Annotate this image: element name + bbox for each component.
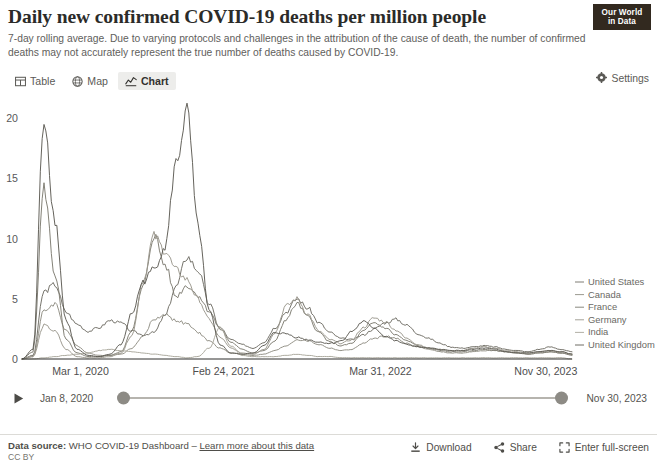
data-source-prefix: Data source: <box>8 440 66 451</box>
timeline-slider[interactable] <box>117 390 568 406</box>
tab-map[interactable]: Map <box>65 72 115 90</box>
chart-tab-bar: Table Map Chart <box>0 70 657 92</box>
chart-header: Daily new confirmed COVID-19 deaths per … <box>0 0 657 60</box>
data-source-block: Data source: WHO COVID-19 Dashboard – Le… <box>8 440 314 463</box>
y-tick-label: 20 <box>6 112 18 124</box>
timeline-handle-end[interactable] <box>555 392 568 405</box>
download-button[interactable]: Download <box>410 442 471 453</box>
settings-label: Settings <box>611 73 649 84</box>
x-tick-label: Mar 31, 2022 <box>349 365 412 377</box>
legend-label[interactable]: France <box>588 301 617 312</box>
x-tick-label: Feb 24, 2021 <box>193 365 256 377</box>
share-icon <box>494 442 505 453</box>
series-line[interactable] <box>22 257 572 359</box>
owid-logo-line2: in Data <box>608 17 636 26</box>
fullscreen-label: Enter full-screen <box>575 442 649 453</box>
timeline-start-date: Jan 8, 2020 <box>40 393 93 404</box>
download-label: Download <box>426 442 471 453</box>
x-tick-label: Mar 1, 2020 <box>52 365 109 377</box>
play-icon <box>12 392 25 405</box>
legend-label[interactable]: United States <box>588 276 645 287</box>
timeline-handle-start[interactable] <box>117 392 130 405</box>
y-axis-tick-labels: 05101520 <box>6 112 18 365</box>
share-label: Share <box>510 442 537 453</box>
table-icon <box>15 76 26 87</box>
tab-table[interactable]: Table <box>8 72 62 90</box>
tab-map-label: Map <box>87 75 108 87</box>
legend-label[interactable]: United Kingdom <box>588 339 655 350</box>
tab-chart-label: Chart <box>141 75 169 87</box>
owid-logo-line1: Our World <box>602 8 643 17</box>
learn-more-link[interactable]: Learn more about this data <box>199 440 314 451</box>
series-line[interactable] <box>22 103 572 359</box>
legend-label[interactable]: Germany <box>588 314 627 325</box>
fullscreen-icon <box>559 442 570 453</box>
y-tick-label: 0 <box>12 353 18 365</box>
owid-chart-embed: Daily new confirmed COVID-19 deaths per … <box>0 0 657 463</box>
gear-icon <box>596 72 607 85</box>
chart-plot-area[interactable]: 05101520 United StatesCanadaFranceGerman… <box>0 96 657 381</box>
chart-footer: Data source: WHO COVID-19 Dashboard – Le… <box>0 434 657 463</box>
timeline-control[interactable]: Jan 8, 2020 Nov 30, 2023 <box>0 383 657 413</box>
globe-icon <box>72 76 83 87</box>
play-button[interactable] <box>10 390 26 406</box>
data-source-name: WHO COVID-19 Dashboard <box>69 440 189 451</box>
series-line[interactable] <box>22 183 572 359</box>
tab-table-label: Table <box>30 75 55 87</box>
x-tick-label: Nov 30, 2023 <box>514 365 577 377</box>
series-lines <box>22 103 572 359</box>
chart-legend: United StatesCanadaFranceGermanyIndiaUni… <box>575 276 655 350</box>
download-icon <box>410 442 421 453</box>
tab-chart[interactable]: Chart <box>118 72 176 90</box>
series-line[interactable] <box>22 303 572 360</box>
legend-label[interactable]: India <box>588 327 609 338</box>
line-chart-icon <box>125 76 137 87</box>
license-label: CC BY <box>8 452 314 463</box>
fullscreen-button[interactable]: Enter full-screen <box>559 442 649 453</box>
timeline-track[interactable] <box>125 397 560 400</box>
chart-subtitle: 7-day rolling average. Due to varying pr… <box>8 32 594 60</box>
series-line[interactable] <box>22 327 572 359</box>
share-button[interactable]: Share <box>494 442 537 453</box>
x-axis-tick-labels: Mar 1, 2020Feb 24, 2021Mar 31, 2022Nov 3… <box>52 365 577 377</box>
legend-label[interactable]: Canada <box>588 289 622 300</box>
y-tick-label: 5 <box>12 293 18 305</box>
owid-logo[interactable]: Our World in Data <box>593 4 651 30</box>
page-title: Daily new confirmed COVID-19 deaths per … <box>8 6 588 28</box>
settings-button[interactable]: Settings <box>596 72 649 85</box>
covid-deaths-line-chart[interactable]: 05101520 United StatesCanadaFranceGerman… <box>0 96 657 381</box>
timeline-end-date: Nov 30, 2023 <box>586 393 647 404</box>
footer-actions: Download Share <box>410 440 649 453</box>
y-tick-label: 15 <box>6 173 18 185</box>
source-separator: – <box>191 440 196 451</box>
y-tick-label: 10 <box>6 233 18 245</box>
